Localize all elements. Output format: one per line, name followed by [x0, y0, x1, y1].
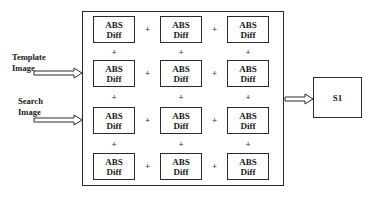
abs-diff-cell-line1: ABS — [105, 20, 123, 30]
abs-diff-cell: ABSDiff — [227, 107, 269, 134]
abs-diff-cell-line1: ABS — [105, 111, 123, 121]
abs-diff-cell: ABSDiff — [160, 107, 202, 134]
abs-diff-cell-line2: Diff — [107, 30, 122, 40]
abs-diff-cell: ABSDiff — [93, 16, 135, 43]
abs-diff-cell-line2: Diff — [107, 121, 122, 131]
abs-diff-cell-line1: ABS — [172, 20, 190, 30]
abs-diff-cell-line2: Diff — [107, 167, 122, 177]
abs-diff-cell: ABSDiff — [93, 60, 135, 87]
abs-diff-cell-line2: Diff — [241, 74, 256, 84]
plus-operator: + — [143, 116, 153, 125]
abs-diff-cell: ABSDiff — [160, 153, 202, 180]
plus-operator: + — [109, 93, 119, 102]
abs-diff-cell: ABSDiff — [93, 107, 135, 134]
abs-diff-cell-line2: Diff — [107, 74, 122, 84]
output-arrow — [285, 94, 313, 104]
abs-diff-cell-line1: ABS — [239, 64, 257, 74]
plus-operator: + — [210, 25, 220, 34]
abs-diff-cell-line2: Diff — [174, 74, 189, 84]
abs-diff-cell-line2: Diff — [174, 30, 189, 40]
abs-diff-cell-line2: Diff — [174, 121, 189, 131]
abs-diff-cell: ABSDiff — [160, 60, 202, 87]
plus-operator: + — [210, 69, 220, 78]
abs-diff-cell-line1: ABS — [239, 111, 257, 121]
abs-diff-cell-line2: Diff — [241, 167, 256, 177]
abs-diff-cell-line1: ABS — [172, 157, 190, 167]
abs-diff-cell: ABSDiff — [227, 60, 269, 87]
abs-diff-cell-line1: ABS — [239, 157, 257, 167]
plus-operator: + — [210, 116, 220, 125]
plus-operator: + — [143, 25, 153, 34]
abs-diff-cell-line2: Diff — [241, 121, 256, 131]
abs-diff-cell-line2: Diff — [241, 30, 256, 40]
s1-label: S1 — [333, 93, 343, 103]
abs-diff-cell: ABSDiff — [227, 153, 269, 180]
abs-diff-cell-line1: ABS — [239, 20, 257, 30]
plus-operator: + — [176, 48, 186, 57]
plus-operator: + — [109, 48, 119, 57]
abs-diff-cell: ABSDiff — [93, 153, 135, 180]
abs-diff-cell: ABSDiff — [160, 16, 202, 43]
plus-operator: + — [176, 93, 186, 102]
plus-operator: + — [176, 140, 186, 149]
abs-diff-cell-line1: ABS — [105, 64, 123, 74]
template-input-arrow — [34, 68, 82, 78]
abs-diff-cell: ABSDiff — [227, 16, 269, 43]
s1-output-block: S1 — [313, 77, 362, 118]
plus-operator: + — [143, 162, 153, 171]
plus-operator: + — [243, 93, 253, 102]
abs-diff-cell-line1: ABS — [172, 111, 190, 121]
plus-operator: + — [243, 140, 253, 149]
abs-diff-cell-line1: ABS — [172, 64, 190, 74]
abs-diff-cell-line2: Diff — [174, 167, 189, 177]
plus-operator: + — [243, 48, 253, 57]
plus-operator: + — [143, 69, 153, 78]
search-input-arrow — [34, 115, 82, 125]
abs-diff-cell-line1: ABS — [105, 157, 123, 167]
plus-operator: + — [109, 140, 119, 149]
plus-operator: + — [210, 162, 220, 171]
